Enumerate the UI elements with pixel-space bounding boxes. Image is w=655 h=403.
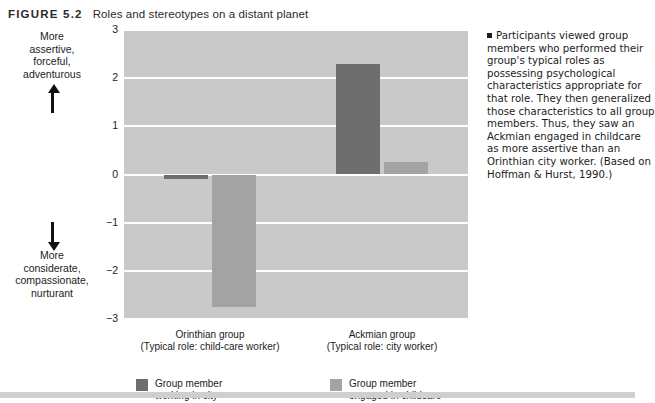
bar-0-1 [212,175,256,307]
axis-annotation-top: More assertive, forceful, adventurous [0,30,104,80]
axis-annotation-bottom-line-2: compassionate, [0,274,104,287]
legend-label-0: Group member working in city [155,378,270,403]
x-axis-category-0: Orinthian group (Typical role: child-car… [124,329,296,354]
y-axis-tick-label: −1 [92,216,118,228]
page-title: Roles and stereotypes on a distant plane… [93,8,309,20]
gridline--1 [124,222,468,224]
caption-text: Participants viewed group members who pe… [487,30,655,180]
legend-swatch-0 [136,379,148,391]
legend-label-0-line-0: Group member [155,378,222,389]
arrow-down-icon [0,222,104,251]
axis-annotation-top-line-1: assertive, [0,43,104,56]
x-axis-category-0-sublabel: (Typical role: child-care worker) [124,341,296,353]
figure-header: FIGURE 5.2 Roles and stereotypes on a di… [8,5,478,23]
gridline-1 [124,125,468,127]
y-axis-tick-label: 2 [92,71,118,83]
x-axis-category-1-sublabel: (Typical role: city worker) [296,341,468,353]
x-axis-category-1-name: Ackmian group [296,329,468,341]
arrow-up-icon [0,84,104,113]
legend-item-1: Group member engaged in childcare [330,378,464,403]
y-axis-tick-label: −3 [92,312,118,324]
axis-annotation-bottom-line-3: nurturant [0,287,104,300]
axis-annotation-top-line-2: forceful, [0,55,104,68]
legend-label-1: Group member engaged in childcare [349,378,464,403]
gridline--3 [124,318,468,320]
legend-item-0: Group member working in city [136,378,270,403]
axis-annotation-top-line-0: More [0,30,104,43]
chart-legend: Group member working in city Group membe… [136,378,466,403]
figure-number: FIGURE 5.2 [8,8,83,20]
bottom-strip [0,392,635,398]
y-axis-tick-label: 0 [92,168,118,180]
bar-1-0 [336,64,380,175]
gridline-3 [124,29,468,31]
plot-area [124,30,468,319]
chart-container: More assertive, forceful, adventurous Mo… [0,26,480,398]
caption-bullet-icon [487,33,492,38]
axis-annotation-top-line-3: adventurous [0,68,104,81]
legend-label-1-line-0: Group member [349,378,416,389]
y-axis-tick-label: 1 [92,119,118,131]
figure-caption: Participants viewed group members who pe… [487,30,655,181]
x-axis-category-0-name: Orinthian group [124,329,296,341]
bar-0-0 [164,175,208,180]
axis-annotation-bottom-line-1: considerate, [0,262,104,275]
axis-annotation-bottom-line-0: More [0,249,104,262]
legend-swatch-1 [330,379,342,391]
y-axis-tick-label: 3 [92,23,118,35]
gridline-2 [124,77,468,79]
axis-annotation-bottom: More considerate, compassionate, nurtura… [0,249,104,299]
gridline--2 [124,270,468,272]
bar-1-1 [384,162,428,174]
y-axis-tick-label: −2 [92,264,118,276]
x-axis-category-1: Ackmian group (Typical role: city worker… [296,329,468,354]
